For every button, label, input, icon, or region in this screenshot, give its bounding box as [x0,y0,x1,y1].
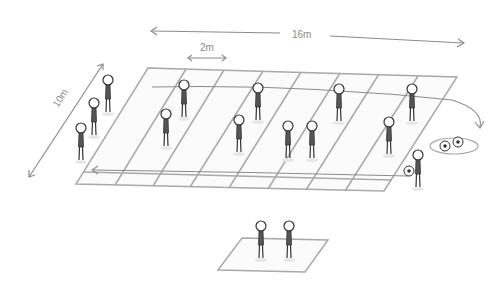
width-label: 10m [50,87,70,109]
lane-dimension-arrow: 2m [188,42,226,61]
waiting-square [218,221,328,272]
ball-zone [430,137,478,154]
drill-diagram: 16m 2m 10m [0,0,500,294]
lane-label: 2m [200,42,214,53]
length-dimension-arrow: 16m [151,27,464,47]
length-label: 16m [292,29,311,40]
